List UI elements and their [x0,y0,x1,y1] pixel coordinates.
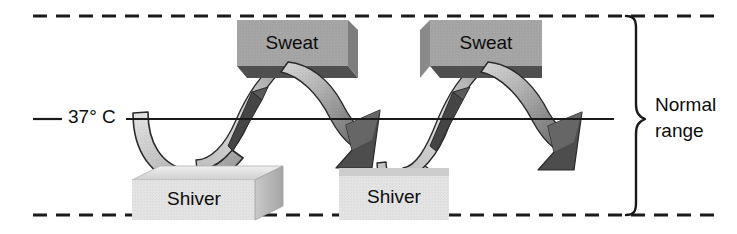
ribbon-down-3 [481,62,582,170]
shiver-2-label: Shiver [367,186,422,207]
normal-range-label-line2: range [655,120,704,141]
shiver-2-top-strip [339,168,449,176]
diagram-canvas: Sweat Sweat [0,0,737,234]
shiver-1-label: Shiver [167,188,222,209]
block-shiver-1: Shiver [132,166,283,220]
sweat-1-label: Sweat [266,32,320,53]
sweat-2-left-face [420,20,430,78]
thermoregulation-diagram: Sweat Sweat [0,0,737,234]
normal-range-brace [626,16,645,215]
sweat-2-label: Sweat [460,32,514,53]
normal-range-label-line1: Normal [655,94,716,115]
block-shiver-2: Shiver [339,168,449,220]
setpoint-label: 37° C [68,106,116,127]
ribbon-up-1 [196,63,283,170]
block-sweat-2: Sweat [420,20,542,78]
